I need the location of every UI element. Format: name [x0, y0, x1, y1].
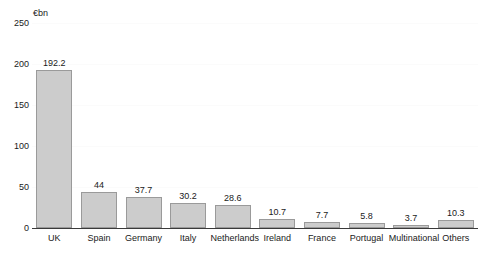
- bar-group[interactable]: 192.2: [36, 23, 72, 228]
- category-label: France: [300, 232, 345, 244]
- y-axis-tick-label: 50: [3, 183, 29, 192]
- y-axis-tick-label: 100: [3, 142, 29, 151]
- bar[interactable]: [215, 205, 251, 228]
- bar-group[interactable]: 10.3: [438, 23, 474, 228]
- category-label: Germany: [121, 232, 166, 244]
- y-axis-tick-label: 150: [3, 101, 29, 110]
- x-axis-category-labels: UKSpainGermanyItalyNetherlandsIrelandFra…: [32, 232, 478, 248]
- category-label: Ireland: [255, 232, 300, 244]
- bar-group[interactable]: 5.8: [349, 23, 385, 228]
- y-axis-tick-label: 250: [3, 19, 29, 28]
- bar-value-label: 10.3: [428, 208, 482, 218]
- bar-group[interactable]: 7.7: [304, 23, 340, 228]
- bar-group[interactable]: 3.7: [393, 23, 429, 228]
- category-label: Spain: [77, 232, 122, 244]
- category-label: Multinational: [389, 232, 434, 244]
- bar[interactable]: [81, 192, 117, 228]
- bar-group[interactable]: 37.7: [126, 23, 162, 228]
- bar-value-label: 28.6: [205, 193, 261, 203]
- y-axis-tick-label: 200: [3, 60, 29, 69]
- bar-value-label: 192.2: [26, 58, 82, 68]
- category-label: Italy: [166, 232, 211, 244]
- y-axis-tick-label: 0: [3, 224, 29, 233]
- category-label: UK: [32, 232, 77, 244]
- bar-group[interactable]: 44: [81, 23, 117, 228]
- bar[interactable]: [170, 203, 206, 228]
- bar[interactable]: [438, 220, 474, 228]
- category-label: Others: [433, 232, 478, 244]
- x-axis-line: [32, 228, 478, 229]
- bar[interactable]: [259, 219, 295, 228]
- bar-group[interactable]: 10.7: [259, 23, 295, 228]
- bar-group[interactable]: 30.2: [170, 23, 206, 228]
- bar[interactable]: [36, 70, 72, 228]
- bar-group[interactable]: 28.6: [215, 23, 251, 228]
- bar-chart-figure: €bn 050100150200250 192.24437.730.228.61…: [0, 0, 482, 253]
- bar[interactable]: [126, 197, 162, 228]
- category-label: Portugal: [344, 232, 389, 244]
- bars-layer: 192.24437.730.228.610.77.75.83.710.3: [32, 23, 478, 228]
- category-label: Netherlands: [210, 232, 255, 244]
- y-axis-ticks: 050100150200250: [0, 0, 29, 253]
- y-axis-unit-label: €bn: [33, 8, 48, 19]
